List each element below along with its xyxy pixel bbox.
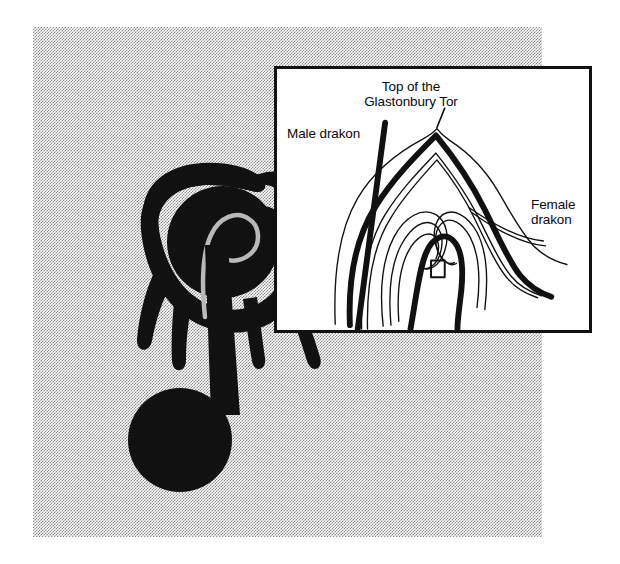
label-male-drakon: Male drakon	[287, 126, 360, 141]
label-female-drakon: Female drakon	[531, 197, 575, 227]
label-top-of-tor: Top of the Glastonbury Tor	[351, 79, 471, 109]
line-drawing-inset: Top of the Glastonbury Tor Male drakon F…	[274, 66, 592, 333]
top-of-tor-leader	[437, 108, 445, 128]
figure-canvas: Top of the Glastonbury Tor Male drakon F…	[0, 0, 620, 564]
summit-core-loop	[411, 236, 463, 329]
